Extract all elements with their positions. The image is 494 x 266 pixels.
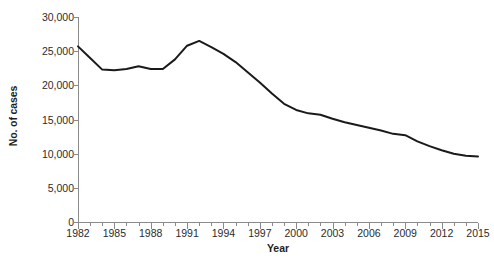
plot-area [78,17,478,222]
y-axis-tick-label: 30,000 [20,10,74,24]
y-axis-tick-mark [73,17,78,18]
y-axis-tick-mark [73,85,78,86]
y-axis-title-label: No. of cases [7,86,19,147]
x-axis-tick-label: 2000 [276,226,316,240]
x-axis-tick-label: 1982 [58,226,98,240]
x-axis-tick-label: 1991 [167,226,207,240]
x-axis-tick-label: 2009 [385,226,425,240]
x-axis-tick-label: 2006 [349,226,389,240]
x-axis-tick-label: 1994 [203,226,243,240]
series-line-no-of-cases [78,17,478,222]
x-axis-tick-label: 1997 [240,226,280,240]
x-axis-tick-label: 2003 [313,226,353,240]
x-axis-tick-label: 1985 [94,226,134,240]
y-axis-tick-label: 20,000 [20,78,74,92]
y-axis-tick-label: 25,000 [20,44,74,58]
y-axis-tick-labels: 05,00010,00015,00020,00025,00030,000 [20,10,74,226]
x-axis-tick-label: 2012 [422,226,462,240]
y-axis-tick-mark [73,154,78,155]
y-axis-tick-mark [73,188,78,189]
y-axis-tick-label: 15,000 [20,113,74,127]
y-axis-tick-mark [73,120,78,121]
x-axis-tick-label: 1988 [131,226,171,240]
y-axis-tick-label: 5,000 [20,181,74,195]
x-axis-tick-label: 2015 [458,226,494,240]
y-axis-tick-label: 10,000 [20,147,74,161]
x-axis-tick-labels: 1982198519881991199419972000200320062009… [78,226,488,242]
y-axis-tick-mark [73,51,78,52]
x-axis-title: Year [78,242,478,254]
